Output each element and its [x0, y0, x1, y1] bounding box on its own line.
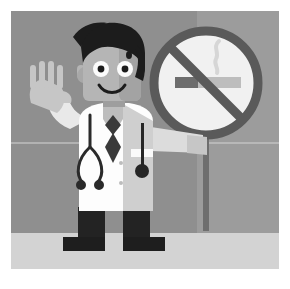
shoe-right — [123, 237, 165, 251]
artboard: Doctor holding no-smoking sign Flat illu… — [11, 11, 279, 269]
hand-gripping-pole — [187, 135, 207, 155]
lab-coat-shadow — [123, 104, 153, 211]
stethoscope-earpiece-right — [95, 181, 103, 189]
pen-tip — [135, 164, 149, 178]
cigarette-filter — [175, 77, 198, 88]
illustration-canvas: Doctor holding no-smoking sign Flat illu… — [0, 0, 290, 289]
finger-2 — [39, 61, 45, 89]
finger-4 — [57, 65, 63, 89]
doctor-no-smoking-illustration: Doctor holding no-smoking sign Flat illu… — [11, 11, 279, 269]
coat-button-2 — [119, 181, 123, 185]
finger-3 — [48, 61, 54, 89]
eye-left-pupil — [98, 66, 105, 73]
shoe-left — [63, 237, 105, 251]
finger-1 — [30, 65, 36, 89]
pen-shaft — [141, 123, 144, 167]
coat-button-1 — [119, 161, 123, 165]
stethoscope-earpiece-left — [77, 181, 85, 189]
eye-right-pupil — [122, 66, 129, 73]
